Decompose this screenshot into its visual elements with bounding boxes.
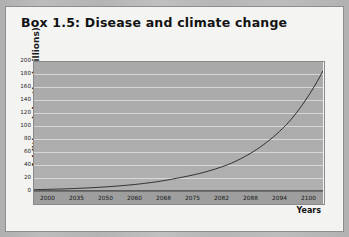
plot-area — [33, 61, 323, 191]
y-tick-label: 100 — [14, 123, 31, 129]
x-tick-label: 2082 — [214, 195, 229, 201]
x-tick-label: 2000 — [40, 195, 55, 201]
chart-container: Additional deaths (millions) 02040608010… — [14, 43, 335, 225]
x-tick-label: 2100 — [301, 195, 316, 201]
y-tick-label: 120 — [14, 110, 31, 116]
x-tick-label: 2088 — [243, 195, 258, 201]
x-tick-label: 2060 — [127, 195, 142, 201]
x-tick-label: 2050 — [98, 195, 113, 201]
x-tick-label: 2035 — [69, 195, 84, 201]
x-axis-label: Years — [296, 206, 321, 215]
page-title: Box 1.5: Disease and climate change — [21, 15, 287, 30]
y-tick-label: 180 — [14, 71, 31, 77]
y-tick-label: 20 — [14, 175, 31, 181]
y-tick-label: 200 — [14, 58, 31, 64]
box-card: Box 1.5: Disease and climate change Addi… — [5, 6, 344, 232]
y-tick-label: 160 — [14, 84, 31, 90]
y-tick-label: 60 — [14, 149, 31, 155]
plot-wrapper: 020406080100120140160180200 200020352050… — [33, 43, 323, 225]
x-tick-label: 2094 — [272, 195, 287, 201]
line-series-additional-deaths — [33, 61, 323, 191]
x-axis-tick-band: 2000203520502060206820752082208820942100 — [33, 191, 323, 204]
box-title-bar: Box 1.5: Disease and climate change — [6, 7, 343, 40]
y-tick-label: 80 — [14, 136, 31, 142]
y-tick-label: 40 — [14, 162, 31, 168]
x-tick-label: 2068 — [156, 195, 171, 201]
x-tick-label: 2075 — [185, 195, 200, 201]
y-tick-label: 140 — [14, 97, 31, 103]
y-tick-label: 0 — [14, 188, 31, 194]
